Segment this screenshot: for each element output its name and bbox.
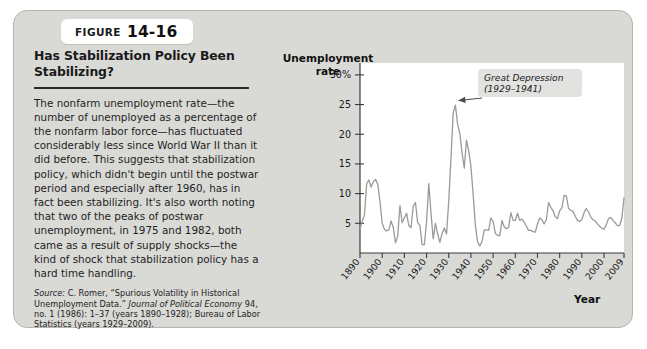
figure-body-text: The nonfarm unemployment rate—the number… [34, 96, 262, 281]
x-tick-label: 1940 [449, 256, 472, 281]
source-label: Source: [34, 288, 65, 298]
y-tick-label: 5 [345, 218, 351, 229]
annotation-line-1: Great Depression [484, 73, 564, 83]
y-tick-label: 30% [330, 69, 351, 80]
figure-title: Has Stabilization Policy Been Stabilizin… [34, 48, 262, 79]
x-tick-label: 1980 [538, 256, 561, 281]
source-journal-name: Journal of Political Economy [129, 299, 243, 309]
figure-text-column: Has Stabilization Policy Been Stabilizin… [34, 48, 262, 330]
figure-badge-word: FIGURE [75, 26, 121, 38]
x-tick-label: 1890 [339, 256, 362, 281]
unemployment-rate-line-chart: 30%252015105 189019001910192019301940195… [282, 45, 632, 293]
y-tick-label: 25 [339, 99, 351, 110]
figure-source-citation: Source: C. Romer, “Spurious Volatility i… [34, 288, 262, 330]
x-tick-label: 1950 [472, 256, 495, 281]
title-divider [34, 87, 249, 89]
x-tick-label: 2000 [583, 256, 606, 281]
x-tick-label: 1900 [361, 256, 384, 281]
x-tick-label: 2009 [603, 256, 626, 281]
x-tick-label: 1910 [383, 256, 406, 281]
figure-panel: FIGURE 14-16 Has Stabilization Policy Be… [13, 10, 633, 328]
x-tick-label: 1970 [516, 256, 539, 281]
y-axis-ticks: 30%252015105 [330, 69, 364, 228]
y-tick-label: 10 [339, 188, 351, 199]
x-tick-label: 1920 [405, 256, 428, 281]
x-tick-label: 1960 [494, 256, 517, 281]
figure-number-badge: FIGURE 14-16 [61, 19, 193, 44]
figure-badge-number: 14-16 [127, 23, 178, 41]
chart-area: Unemploymentrate Year 30%252015105 18901… [282, 45, 632, 320]
y-tick-label: 15 [339, 158, 351, 169]
chart-x-axis-title: Year [574, 293, 600, 305]
x-axis-ticks: 1890190019101920193019401950196019701980… [339, 253, 626, 282]
x-tick-label: 1990 [560, 256, 583, 281]
x-tick-label: 1930 [427, 256, 450, 281]
y-tick-label: 20 [339, 129, 351, 140]
annotation-line-2: (1929–1941) [484, 84, 542, 94]
